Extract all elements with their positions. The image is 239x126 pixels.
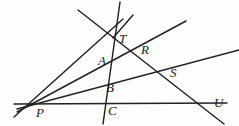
point-label-C: C: [108, 104, 117, 117]
point-label-B: B: [106, 81, 114, 94]
point-label-S: S: [170, 66, 177, 79]
line-P-through-C-U: [14, 103, 227, 104]
point-label-U: U: [214, 96, 223, 109]
point-label-T: T: [119, 32, 126, 45]
geometry-figure: P T A B C R S U: [0, 0, 239, 126]
point-label-A: A: [98, 54, 106, 67]
line-group: [14, 2, 239, 124]
ray-P-through-B-S: [17, 50, 239, 109]
point-label-P: P: [36, 106, 44, 119]
point-label-R: R: [141, 43, 149, 56]
